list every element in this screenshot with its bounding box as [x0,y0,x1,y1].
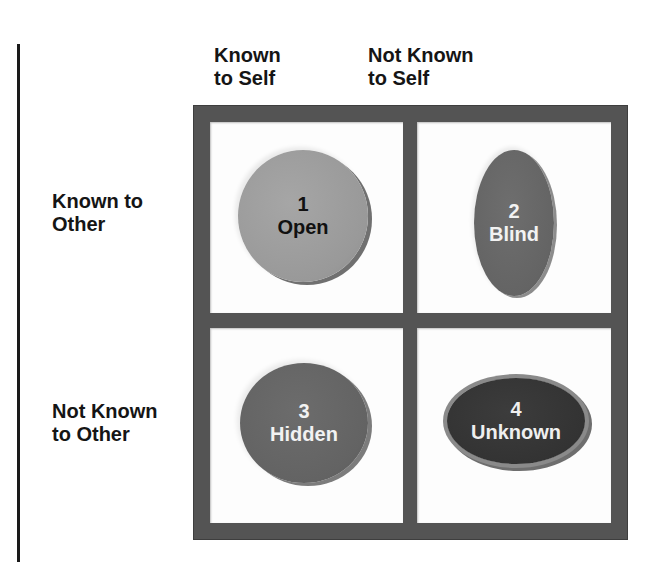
quadrant-label: Blind [489,223,539,246]
column-header-known-to-self: Known to Self [214,44,281,90]
row-header-line: Known to [52,190,143,213]
row-header-line: to Other [52,423,158,446]
quadrant-label: Unknown [471,421,561,444]
column-header-line: to Self [368,67,474,90]
column-header-line: to Self [214,67,281,90]
quadrant-number: 3 [298,400,309,423]
quadrant-blind: 2 Blind [417,122,611,313]
vertical-rule-line [17,44,20,562]
quadrant-number: 2 [508,200,519,223]
quadrant-open: 1 Open [210,122,403,313]
quadrant-number: 1 [297,193,308,216]
hidden-ellipse: 3 Hidden [240,363,368,483]
johari-window-frame: 1 Open 2 Blind 3 Hidden 4 Unknown [193,105,628,540]
quadrant-label: Hidden [270,423,338,446]
quadrant-hidden: 3 Hidden [210,328,403,523]
quadrant-label: Open [277,216,328,239]
column-header-line: Not Known [368,44,474,67]
quadrant-number: 4 [510,398,521,421]
blind-ellipse: 2 Blind [474,150,554,296]
quadrant-unknown: 4 Unknown [417,328,611,523]
column-header-line: Known [214,44,281,67]
unknown-ellipse: 4 Unknown [447,378,585,464]
open-ellipse: 1 Open [238,150,368,282]
row-header-line: Not Known [52,400,158,423]
row-header-known-to-other: Known to Other [52,190,143,236]
row-header-not-known-to-other: Not Known to Other [52,400,158,446]
row-header-line: Other [52,213,143,236]
column-header-not-known-to-self: Not Known to Self [368,44,474,90]
